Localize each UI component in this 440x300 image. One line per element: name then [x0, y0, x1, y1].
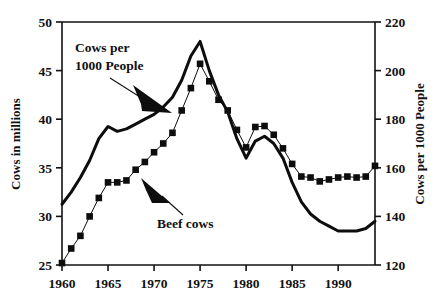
y-tick-label-left: 45 — [39, 64, 53, 79]
series-marker — [353, 174, 360, 181]
y-axis-right-ticks: 120140160180200220 — [375, 15, 406, 273]
series-marker — [178, 107, 185, 114]
series-marker — [114, 179, 121, 186]
series-marker — [96, 195, 103, 202]
series-marker — [270, 131, 277, 138]
series-marker — [243, 144, 250, 151]
series-marker — [316, 178, 323, 185]
series-marker — [86, 213, 93, 220]
y-axis-right-title: Cows per 1000 People — [412, 83, 427, 205]
series-marker — [105, 179, 112, 186]
x-tick-label: 1970 — [141, 276, 168, 291]
x-tick-label: 1990 — [325, 276, 352, 291]
annotation-cows-per-1000-line2: 1000 People — [75, 58, 144, 73]
y-axis-left-title: Cows in millions — [8, 98, 23, 190]
series-marker — [307, 174, 314, 181]
x-axis-ticks: 1960196519701975198019851990 — [49, 265, 352, 291]
series-marker — [160, 140, 167, 147]
series-marker — [151, 149, 158, 156]
annotation-cows-per-1000-line1: Cows per — [75, 40, 129, 55]
series-marker — [372, 163, 379, 170]
y-tick-label-left: 50 — [39, 15, 53, 30]
y-tick-label-left: 35 — [39, 161, 53, 176]
series-marker — [197, 61, 204, 68]
series-marker — [298, 173, 305, 180]
series-marker — [326, 176, 333, 183]
series-marker — [289, 161, 296, 168]
annotation-cows-per-1000: Cows per 1000 People — [75, 40, 172, 113]
series-marker — [132, 166, 139, 173]
x-tick-label: 1980 — [233, 276, 260, 291]
series-marker — [335, 174, 342, 181]
y-tick-label-right: 140 — [385, 209, 406, 224]
y-tick-label-left: 30 — [39, 209, 53, 224]
annotation-beef-cows: Beef cows — [141, 178, 214, 231]
y-axis-left-ticks: 253035404550 — [39, 15, 63, 273]
y-tick-label-left: 25 — [39, 258, 53, 273]
cows-line-chart: 253035404550 120140160180200220 19601965… — [0, 0, 440, 300]
series-marker — [77, 233, 84, 240]
x-tick-label: 1965 — [95, 276, 122, 291]
x-tick-label: 1975 — [187, 276, 214, 291]
series-marker — [68, 245, 75, 252]
series-marker — [344, 173, 351, 180]
series-marker — [362, 173, 369, 180]
x-tick-label: 1960 — [49, 276, 76, 291]
x-tick-label: 1985 — [279, 276, 306, 291]
series-marker — [188, 85, 195, 92]
series-marker — [261, 123, 268, 130]
data-series-layer — [59, 41, 379, 266]
y-tick-label-left: 40 — [39, 112, 53, 127]
series-marker — [280, 145, 287, 152]
series-marker — [123, 177, 130, 184]
y-tick-label-right: 220 — [385, 15, 406, 30]
annotation-cows-per-1000-arrowhead — [133, 85, 172, 113]
y-tick-label-right: 160 — [385, 161, 406, 176]
annotation-beef-cows-arrowhead — [141, 178, 170, 203]
y-tick-label-right: 180 — [385, 112, 406, 127]
annotation-beef-cows-label: Beef cows — [157, 216, 214, 231]
series-marker — [142, 159, 149, 166]
series-marker — [252, 124, 259, 131]
y-tick-label-right: 200 — [385, 64, 406, 79]
y-tick-label-right: 120 — [385, 258, 406, 273]
chart-figure: 253035404550 120140160180200220 19601965… — [0, 0, 440, 300]
series-marker — [169, 130, 176, 137]
series-marker — [59, 260, 66, 267]
